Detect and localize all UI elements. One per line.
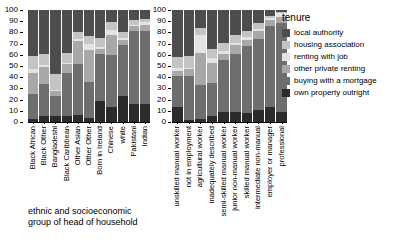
x-axis-tick-label: semi-skilled manual worker xyxy=(220,126,228,216)
legend-swatch-icon xyxy=(282,29,290,37)
x-axis-tick-label: Other Other xyxy=(85,126,93,166)
bar-segment xyxy=(84,44,94,51)
x-axis-label-slot: agricultural worker xyxy=(195,124,206,206)
bar-segment xyxy=(62,64,72,73)
x-axis-tick-mark xyxy=(145,122,146,124)
x-axis-label-slot: Born in Ireland xyxy=(95,124,105,206)
bar-stack xyxy=(118,10,128,122)
bar-stack xyxy=(73,10,83,122)
y-axis-tick-label: 90 xyxy=(9,17,18,25)
x-axis-tick-mark xyxy=(67,122,68,124)
bar-segment xyxy=(95,38,105,47)
legend-item: local authority xyxy=(282,27,394,38)
y-axis-tick-label: 30 xyxy=(157,84,166,92)
y-axis-tick-mark xyxy=(168,10,171,11)
bar-segment xyxy=(195,85,206,119)
x-axis-tick-label: junior non-manual worker xyxy=(231,126,239,211)
legend-swatch-icon xyxy=(282,53,290,61)
panel-ethnic-socioeconomic: 0102030405060708090100 Black AfricanBlac… xyxy=(0,0,158,248)
legend-item-label: other private renting xyxy=(294,64,365,73)
x-axis-tick-mark xyxy=(270,122,271,124)
bar-segment xyxy=(218,112,229,122)
x-axis-label-slot: employer or manager xyxy=(265,124,276,206)
x-axis-tick-mark xyxy=(224,122,225,124)
bar-segment xyxy=(276,112,287,122)
x-axis-tick-label: Chinese xyxy=(107,126,115,154)
bar-segment xyxy=(230,54,241,112)
bar-segment xyxy=(218,60,229,112)
bar-segment xyxy=(242,10,253,31)
x-axis-label-slot: Black Other xyxy=(39,124,49,206)
legend-item-label: renting with job xyxy=(294,52,348,61)
bar-segment xyxy=(84,36,94,44)
x-axis-caption-left: ethnic and socioeconomic group of head o… xyxy=(28,206,168,228)
bar-segment xyxy=(39,10,49,54)
y-axis-tick-label: 30 xyxy=(9,84,18,92)
y-axis-tick-mark xyxy=(20,10,23,11)
bar-segment xyxy=(218,54,229,61)
bar-segment xyxy=(84,82,94,118)
bar-segment xyxy=(106,35,116,55)
bar-segment xyxy=(95,54,105,101)
bar-stack-group-left xyxy=(28,10,150,122)
bar-segment xyxy=(28,10,38,56)
y-axis-tick-label: 100 xyxy=(5,6,18,14)
bar-segment xyxy=(50,96,60,116)
y-axis-tick-label: 40 xyxy=(157,73,166,81)
y-axis-tick-label: 50 xyxy=(157,62,166,70)
plot-area-left xyxy=(28,10,150,122)
bar-segment xyxy=(39,67,49,84)
y-axis-tick-mark xyxy=(20,21,23,22)
bar-segment xyxy=(129,104,139,122)
bar-segment xyxy=(118,45,128,97)
panel-socioeconomic: 0102030405060708090100 unskilled manual … xyxy=(148,0,298,248)
y-axis-tick-mark xyxy=(20,100,23,101)
bar-segment xyxy=(39,84,49,116)
bar-segment xyxy=(62,53,72,63)
y-axis-tick-label: 10 xyxy=(9,107,18,115)
bar-segment xyxy=(172,76,183,107)
bar-segment xyxy=(95,10,105,38)
y-axis-tick-label: 0 xyxy=(162,118,166,126)
y-axis-tick-label: 20 xyxy=(9,96,18,104)
bar-segment xyxy=(73,115,83,122)
y-axis-tick-mark xyxy=(168,88,171,89)
bar-stack xyxy=(207,10,218,122)
y-axis-tick-mark xyxy=(20,44,23,45)
y-axis-tick-mark xyxy=(168,32,171,33)
legend-item-label: local authority xyxy=(294,28,343,37)
y-axis-tick-label: 80 xyxy=(157,28,166,36)
bar-segment xyxy=(218,10,229,42)
x-axis-labels-right: unskilled manual workernot in employment… xyxy=(172,124,287,206)
y-axis-tick-label: 10 xyxy=(157,107,166,115)
x-axis-tick-mark xyxy=(111,122,112,124)
y-axis-tick-label: 90 xyxy=(157,17,166,25)
bar-segment xyxy=(195,53,206,85)
bar-stack xyxy=(84,10,94,122)
x-axis-label-slot: Chinese xyxy=(106,124,116,206)
x-axis-tick-mark xyxy=(89,122,90,124)
x-axis-label-slot: Black Caribbean xyxy=(62,124,72,206)
bar-segment xyxy=(118,10,128,32)
bar-segment xyxy=(62,73,72,117)
bar-segment xyxy=(50,74,60,90)
x-axis-tick-label: agricultural worker xyxy=(196,126,204,187)
x-axis-label-slot: inadequately described xyxy=(207,124,218,206)
bar-segment xyxy=(265,26,276,108)
y-axis-tick-mark xyxy=(168,77,171,78)
x-axis-tick-mark xyxy=(177,122,178,124)
x-axis-tick-mark xyxy=(123,122,124,124)
y-axis-tick-label: 60 xyxy=(157,51,166,59)
bar-stack xyxy=(242,10,253,122)
y-axis-tick-mark xyxy=(168,111,171,112)
x-axis-tick-label: Black African xyxy=(29,126,37,169)
legend-item: own property outright xyxy=(282,87,394,98)
y-axis-tick-label: 0 xyxy=(14,118,18,126)
legend-item: buying with a mortgage xyxy=(282,75,394,86)
bar-segment xyxy=(172,107,183,122)
bar-segment xyxy=(28,94,38,119)
x-axis-tick-label: Bangladeshi xyxy=(51,126,59,167)
legend-item: housing association xyxy=(282,39,394,50)
y-axis-tick-mark xyxy=(20,77,23,78)
bar-segment xyxy=(73,64,83,116)
